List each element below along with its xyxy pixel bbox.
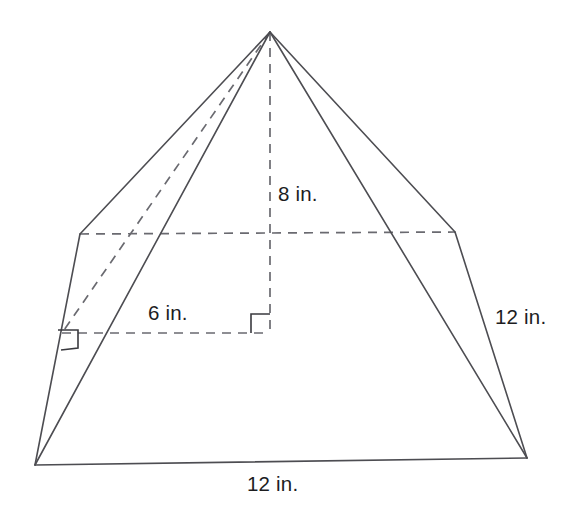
- slant-height-label: 12 in.: [495, 307, 546, 328]
- apothem-label: 6 in.: [148, 303, 188, 324]
- base-edge-right: [455, 232, 527, 458]
- lateral-edge-apex-left-shoulder: [80, 32, 270, 234]
- visible-edges-group: [35, 32, 527, 465]
- base-edge-label: 12 in.: [247, 474, 298, 495]
- hidden-lateral-edge: [62, 32, 270, 333]
- lateral-edge-apex-bottom-left: [35, 32, 270, 465]
- lateral-edge-apex-bottom-right: [270, 32, 527, 458]
- height-label: 8 in.: [278, 184, 318, 205]
- hidden-back-base-edge: [80, 232, 455, 234]
- base-edge-left: [35, 234, 80, 465]
- base-edge-front: [35, 458, 527, 465]
- pyramid-figure: 8 in. 6 in. 12 in. 12 in.: [0, 0, 569, 526]
- hidden-edges-group: [62, 32, 455, 333]
- height-base-right-angle-icon: [251, 314, 270, 333]
- pyramid-drawing: [0, 0, 569, 526]
